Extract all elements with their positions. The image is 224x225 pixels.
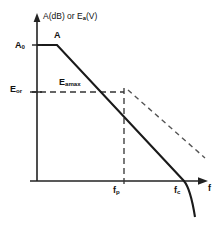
annotation-label-eamax-sub: amax bbox=[65, 80, 81, 87]
x-tick-label-fp-sub: p bbox=[116, 188, 120, 195]
annotation-label-eamax: Eamax bbox=[59, 78, 81, 87]
y-axis-title: A(dB) or Ea(V) bbox=[43, 12, 97, 22]
plot-area bbox=[0, 0, 224, 225]
y-tick-label-a0-sub: 0 bbox=[22, 43, 25, 50]
figure-container: A(dB) or Ea(V) A0 A Eor Eamax fp fc f bbox=[0, 0, 224, 225]
y-tick-label-a0: A0 bbox=[15, 41, 25, 50]
annotation-label-a: A bbox=[54, 31, 61, 40]
y-tick-label-eor-sub: or bbox=[16, 87, 22, 94]
x-tick-label-fp: fp bbox=[113, 186, 120, 195]
y-axis-title-main: A(dB) or E bbox=[43, 11, 83, 21]
x-axis-title: f bbox=[208, 184, 211, 193]
x-axis-title-text: f bbox=[208, 183, 211, 193]
y-axis bbox=[34, 13, 41, 181]
y-axis-title-unit: (V) bbox=[86, 11, 97, 21]
y-tick-label-eor: Eor bbox=[10, 85, 22, 94]
x-tick-label-fc-sub: c bbox=[177, 188, 180, 195]
x-tick-label-fc: fc bbox=[174, 186, 180, 195]
shifted-asymptote-line bbox=[128, 90, 205, 158]
annotation-label-a-text: A bbox=[54, 30, 61, 40]
